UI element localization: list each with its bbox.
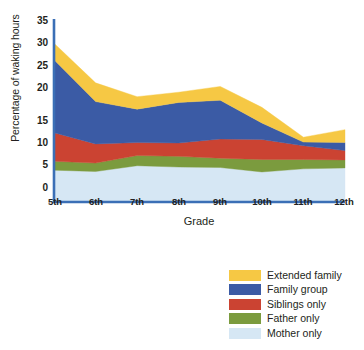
legend-swatch-father-only [229, 313, 261, 324]
stacked-areas [54, 43, 345, 202]
legend-label: Family group [267, 284, 328, 295]
legend-swatch-extended-family [229, 270, 261, 281]
legend-item: Family group [229, 283, 342, 297]
x-tick-10th: 10th [242, 196, 282, 207]
legend-label: Mother only [267, 328, 322, 339]
x-tick-11th: 11th [283, 196, 323, 207]
legend-swatch-family-group [229, 284, 261, 295]
x-tick-8th: 8th [159, 196, 199, 207]
legend-item: Father only [229, 312, 342, 326]
x-tick-6th: 6th [76, 196, 116, 207]
legend-item: Extended family [229, 268, 342, 282]
legend-item: Siblings only [229, 297, 342, 311]
legend-item: Mother only [229, 326, 342, 340]
x-tick-7th: 7th [117, 196, 157, 207]
x-tick-5th: 5th [35, 196, 75, 207]
stacked-area-chart-figure: Percentage of waking hours 35 30 25 20 1… [0, 0, 364, 350]
legend-swatch-mother-only [229, 328, 261, 339]
x-tick-12th: 12th [324, 196, 364, 207]
x-tick-9th: 9th [200, 196, 240, 207]
legend-swatch-siblings-only [229, 299, 261, 310]
legend-label: Father only [267, 313, 320, 324]
chart-legend: Extended familyFamily groupSiblings only… [229, 268, 342, 341]
x-axis-title: Grade [54, 215, 344, 227]
legend-label: Extended family [267, 270, 342, 281]
legend-label: Siblings only [267, 299, 326, 310]
